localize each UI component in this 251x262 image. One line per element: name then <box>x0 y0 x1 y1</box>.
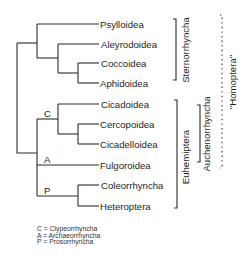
clade-label-euhemiptera: Euhemiptera <box>180 129 191 184</box>
taxon-label: Aleyrodoidea <box>101 39 158 50</box>
legend-item: P = Prosorrhyncha <box>37 238 94 246</box>
taxon-label: Heteroptera <box>100 201 151 212</box>
node-label-a: A <box>44 154 51 165</box>
taxon-label: Fulgoroidea <box>100 160 151 171</box>
taxon-label: Cicadelloidea <box>100 139 158 150</box>
node-label-c: C <box>44 108 51 119</box>
node-label-p: P <box>44 185 50 196</box>
euhemiptera-bracket <box>174 100 177 208</box>
taxon-label: Cicadoidea <box>101 99 150 110</box>
taxon-label: Coleorrhyncha <box>101 180 164 191</box>
taxon-label: Coccoidea <box>101 58 147 69</box>
taxon-labels: Psylloidea Aleyrodoidea Coccoidea Aphido… <box>100 19 164 212</box>
taxon-label: Aphidoidea <box>100 78 149 89</box>
sternorrhyncha-bracket <box>173 19 176 80</box>
root-branch <box>17 43 37 153</box>
auchenorrhyncha-bracket <box>197 105 200 162</box>
taxon-label: Psylloidea <box>100 19 144 30</box>
clade-label-homoptera: "Homoptera" <box>227 55 238 109</box>
clade-label-sternorrhyncha: Sternorrhyncha <box>180 17 191 83</box>
clade-labels: Sternorrhyncha Euhemiptera Auchenorrhync… <box>180 17 238 185</box>
legend: C = Clypeorrhyncha A = Archaeorrhyncha P… <box>37 225 101 246</box>
taxon-label: Cercopoidea <box>100 119 155 130</box>
node-labels: C A P <box>44 108 51 196</box>
clade-label-auchenorrhyncha: Auchenorrhyncha <box>201 96 212 172</box>
homoptera-dotted-bracket <box>220 15 222 168</box>
tree-edges <box>17 24 99 206</box>
phylogenetic-tree: Psylloidea Aleyrodoidea Coccoidea Aphido… <box>0 0 251 262</box>
